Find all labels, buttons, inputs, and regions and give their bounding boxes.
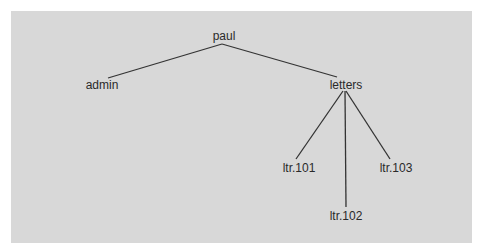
edge-letters-ltr101 [296, 91, 343, 159]
edge-letters-ltr102 [345, 91, 346, 207]
edge-paul-admin [108, 44, 222, 78]
node-admin: admin [86, 79, 119, 91]
node-ltr102: ltr.102 [330, 210, 363, 222]
node-paul: paul [213, 30, 236, 42]
node-ltr101: ltr.101 [283, 162, 316, 174]
tree-edges [0, 0, 483, 251]
edge-paul-letters [222, 44, 337, 77]
node-letters: letters [330, 79, 363, 91]
node-ltr103: ltr.103 [380, 162, 413, 174]
edge-letters-ltr103 [346, 91, 390, 159]
